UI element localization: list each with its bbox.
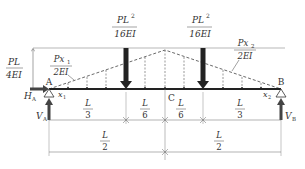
- svg-text:2: 2: [251, 43, 255, 49]
- midpoint-label: C: [168, 93, 175, 103]
- svg-text:6: 6: [142, 110, 147, 120]
- svg-text:2: 2: [102, 142, 107, 152]
- svg-text:16EI: 16EI: [114, 29, 136, 39]
- svg-text:1: 1: [67, 59, 71, 65]
- svg-text:L: L: [101, 130, 108, 140]
- svg-text:6: 6: [178, 110, 183, 120]
- point-load-arrow-left: [120, 48, 132, 89]
- vertical-reaction-b: V B: [277, 98, 296, 122]
- svg-text:2: 2: [216, 142, 221, 152]
- svg-text:Px: Px: [237, 38, 249, 48]
- svg-text:A: A: [31, 96, 37, 102]
- svg-text:L: L: [177, 98, 184, 108]
- svg-text:Px: Px: [53, 54, 65, 64]
- horizontal-reaction-a: H A: [23, 85, 49, 102]
- coord-x2: x 2: [263, 90, 271, 100]
- peak-ordinate-label: PL 4EI: [5, 57, 23, 80]
- beam-diagram: PL 4EI PL 2 16EI PL: [0, 0, 305, 169]
- right-distributed-label: Px 2 2EI: [232, 38, 256, 71]
- svg-text:PL: PL: [7, 57, 20, 67]
- svg-text:4EI: 4EI: [5, 70, 22, 80]
- svg-text:L: L: [236, 98, 243, 108]
- svg-text:PL: PL: [116, 15, 129, 25]
- support-b: B: [276, 77, 286, 97]
- svg-text:L: L: [84, 98, 91, 108]
- coord-x1: x 1: [58, 90, 66, 100]
- svg-text:L: L: [215, 130, 222, 140]
- svg-text:1: 1: [63, 94, 66, 100]
- svg-text:A: A: [45, 77, 53, 87]
- vertical-reaction-a: V A: [36, 98, 53, 122]
- svg-text:2: 2: [131, 12, 135, 19]
- svg-text:B: B: [292, 116, 296, 122]
- point-load-arrow-right: [197, 48, 209, 89]
- svg-text:2: 2: [206, 12, 210, 19]
- distributed-load-arrows-right: [184, 57, 261, 88]
- svg-text:A: A: [42, 116, 48, 122]
- point-load-label-left: PL 2 16EI: [112, 12, 137, 39]
- point-load-label-right: PL 2 16EI: [187, 12, 212, 39]
- svg-text:B: B: [278, 77, 285, 87]
- svg-text:H: H: [23, 91, 32, 101]
- svg-text:2: 2: [268, 94, 271, 100]
- svg-text:16EI: 16EI: [189, 29, 211, 39]
- svg-text:2EI: 2EI: [237, 51, 254, 61]
- left-distributed-label: Px 1 2EI: [50, 54, 74, 80]
- svg-text:3: 3: [85, 110, 90, 120]
- svg-text:PL: PL: [191, 15, 204, 25]
- distributed-load-arrows-left: [68, 50, 165, 88]
- svg-text:3: 3: [237, 110, 242, 120]
- svg-text:L: L: [141, 98, 148, 108]
- svg-text:2EI: 2EI: [53, 67, 70, 77]
